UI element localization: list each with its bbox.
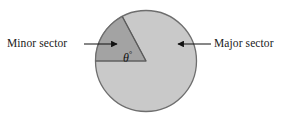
angle-degree-mark: ° <box>129 50 132 59</box>
diagram-canvas <box>0 0 289 119</box>
sector-diagram-figure: Minor sector Major sector θ° <box>0 0 289 119</box>
angle-label: θ° <box>123 51 132 64</box>
major-sector-label: Major sector <box>214 38 274 50</box>
minor-sector-label: Minor sector <box>7 38 67 50</box>
